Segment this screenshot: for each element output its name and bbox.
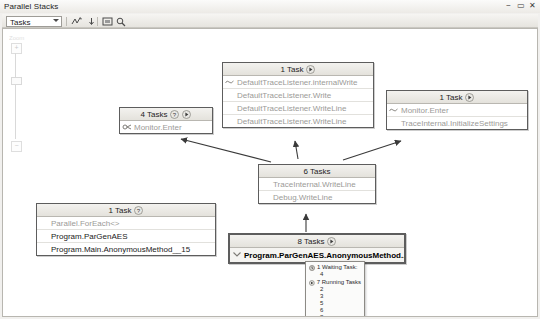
view-selector-value: Tasks bbox=[10, 18, 30, 27]
node-header-label: 1 Task bbox=[440, 93, 463, 102]
stack-frame-label: TraceInternal.WriteLine bbox=[273, 180, 356, 189]
stack-frame[interactable]: Program.ParGenAES.AnonymousMethod... bbox=[230, 248, 404, 262]
node-frames: Monitor.Enter bbox=[120, 121, 212, 133]
view-selector-combobox[interactable]: Tasks bbox=[6, 16, 62, 27]
task-list-tooltip: 1 Waiting Task: 4 7 Running Tasks 2 3 5 … bbox=[305, 261, 365, 317]
node-header[interactable]: 4 Tasks ? bbox=[120, 108, 212, 121]
node-header-label: 8 Tasks bbox=[298, 237, 325, 246]
auto-scroll-button[interactable] bbox=[85, 16, 97, 27]
link-6tasks-to-traceinternal bbox=[343, 141, 401, 160]
chevron-down-icon bbox=[53, 19, 59, 22]
stack-frame-label: DefaultTraceListener.WriteLine bbox=[237, 117, 346, 126]
task-id[interactable]: 2 bbox=[309, 286, 361, 293]
task-id[interactable]: 5 bbox=[309, 300, 361, 307]
maximize-icon[interactable]: ▭ bbox=[516, 2, 525, 11]
node-header-label: 1 Task bbox=[281, 65, 304, 74]
task-id[interactable]: 8 bbox=[309, 314, 361, 317]
help-badge-icon[interactable]: ? bbox=[134, 206, 143, 215]
stack-frame[interactable]: DefaultTraceListener.WriteLine bbox=[223, 101, 373, 114]
tooltip-group-label: 1 Waiting Task: bbox=[317, 264, 357, 271]
node-frames: Parallel.ForEach<> Program.ParGenAES Pro… bbox=[37, 217, 215, 255]
node-header-label: 4 Tasks bbox=[141, 110, 168, 119]
chevron-down-icon bbox=[232, 250, 242, 258]
stack-frame[interactable]: Debug.WriteLine bbox=[259, 190, 375, 203]
birds-eye-view-button[interactable] bbox=[115, 16, 127, 27]
stack-frame[interactable]: Parallel.ForEach<> bbox=[37, 217, 215, 229]
stack-frame-label: Program.ParGenAES.AnonymousMethod... bbox=[244, 251, 404, 260]
node-header[interactable]: 6 Tasks bbox=[259, 165, 375, 178]
stack-frame-label: DefaultTraceListener.WriteLine bbox=[237, 104, 346, 113]
stack-frame[interactable]: TraceInternal.InitializeSettings bbox=[387, 116, 527, 129]
stack-frame-label: DefaultTraceListener.Write bbox=[237, 91, 331, 100]
node-frames: Monitor.Enter TraceInternal.InitializeSe… bbox=[387, 104, 527, 129]
parallel-stacks-window: Parallel Stacks − ▭ ✕ Tasks bbox=[0, 0, 540, 319]
wave-icon bbox=[225, 78, 235, 86]
task-id[interactable]: 4 bbox=[309, 271, 361, 278]
window-titlebar: Parallel Stacks − ▭ ✕ bbox=[0, 0, 540, 13]
run-badge-icon[interactable] bbox=[327, 237, 336, 246]
node-traceinternal-writeline[interactable]: 6 Tasks TraceInternal.WriteLine Debug.Wr… bbox=[258, 164, 376, 204]
task-id[interactable]: 6 bbox=[309, 307, 361, 314]
toggle-method-view-button[interactable] bbox=[70, 16, 82, 27]
stack-frame[interactable]: Monitor.Enter bbox=[387, 104, 527, 116]
toolbar-separator-2 bbox=[97, 17, 98, 26]
stack-frame[interactable]: DefaultTraceListener.Write bbox=[223, 88, 373, 101]
link-6tasks-to-defaulttracelistener bbox=[295, 141, 298, 159]
node-header[interactable]: 1 Task bbox=[223, 63, 373, 76]
help-badge-icon[interactable]: ? bbox=[170, 110, 179, 119]
window-title: Parallel Stacks bbox=[4, 2, 58, 11]
stack-frame-label: Monitor.Enter bbox=[401, 106, 449, 115]
toolbar-separator bbox=[66, 17, 67, 26]
run-badge-icon[interactable] bbox=[182, 110, 191, 119]
zoom-fit-icon bbox=[102, 17, 113, 26]
toolbar: Tasks bbox=[2, 14, 538, 28]
node-parallel-foreach[interactable]: 1 Task ? Parallel.ForEach<> Program.ParG… bbox=[36, 203, 216, 256]
stack-frame[interactable]: Monitor.Enter bbox=[120, 121, 212, 133]
running-task-icon bbox=[309, 280, 315, 286]
tooltip-group-header: 1 Waiting Task: bbox=[309, 264, 361, 271]
stack-frame-label: Program.ParGenAES bbox=[51, 232, 127, 241]
window-controls: − ▭ ✕ bbox=[504, 2, 537, 11]
node-frames: DefaultTraceListener.internalWrite Defau… bbox=[223, 76, 373, 127]
node-header[interactable]: 1 Task ? bbox=[37, 204, 215, 217]
stack-frame-label: Parallel.ForEach<> bbox=[51, 219, 119, 228]
wave-icon bbox=[389, 106, 399, 114]
node-traceinternal-init[interactable]: 1 Task Monitor.Enter TraceInternal.I bbox=[386, 90, 528, 130]
auto-scroll-icon bbox=[87, 17, 96, 26]
node-frames: Program.ParGenAES.AnonymousMethod... bbox=[230, 248, 404, 262]
minimize-icon[interactable]: − bbox=[504, 2, 513, 11]
node-pargenaes-anon[interactable]: 8 Tasks Program.ParGenAES.AnonymousMetho… bbox=[228, 233, 406, 264]
zoom-to-fit-button[interactable] bbox=[101, 16, 113, 27]
birds-eye-icon bbox=[116, 17, 126, 27]
stack-frame-label: DefaultTraceListener.internalWrite bbox=[237, 78, 358, 87]
stack-frame-label: Monitor.Enter bbox=[134, 123, 182, 132]
run-badge-icon[interactable] bbox=[306, 65, 315, 74]
stack-frame[interactable]: Program.Main.AnonymousMethod__15 bbox=[37, 242, 215, 255]
stack-frame[interactable]: DefaultTraceListener.internalWrite bbox=[223, 76, 373, 88]
method-view-icon bbox=[71, 17, 82, 26]
node-header-label: 6 Tasks bbox=[304, 167, 331, 176]
task-id[interactable]: 3 bbox=[309, 293, 361, 300]
run-badge-icon[interactable] bbox=[465, 93, 474, 102]
threads-icon bbox=[122, 123, 132, 131]
stack-frame-label: Debug.WriteLine bbox=[273, 193, 332, 202]
waiting-task-icon bbox=[309, 265, 315, 271]
stack-canvas[interactable]: Zoom + − bbox=[2, 28, 538, 317]
stack-frame[interactable]: Program.ParGenAES bbox=[37, 229, 215, 242]
stack-frame[interactable]: TraceInternal.WriteLine bbox=[259, 178, 375, 190]
tooltip-group-label: 7 Running Tasks bbox=[317, 279, 361, 286]
node-defaulttracelistener[interactable]: 1 Task DefaultTraceListener.internalWrit… bbox=[222, 62, 374, 128]
tooltip-group-header: 7 Running Tasks bbox=[309, 279, 361, 286]
node-frames: TraceInternal.WriteLine Debug.WriteLine bbox=[259, 178, 375, 203]
close-icon[interactable]: ✕ bbox=[528, 2, 537, 11]
node-header-label: 1 Task bbox=[109, 206, 132, 215]
stack-frame-label: Program.Main.AnonymousMethod__15 bbox=[51, 245, 190, 254]
stack-frame[interactable]: DefaultTraceListener.WriteLine bbox=[223, 114, 373, 127]
stack-frame-label: TraceInternal.InitializeSettings bbox=[401, 119, 508, 128]
node-monitor-enter-4[interactable]: 4 Tasks ? bbox=[119, 107, 213, 134]
node-header[interactable]: 8 Tasks bbox=[230, 235, 404, 248]
link-6tasks-to-monitorenter bbox=[181, 139, 271, 162]
node-header[interactable]: 1 Task bbox=[387, 91, 527, 104]
